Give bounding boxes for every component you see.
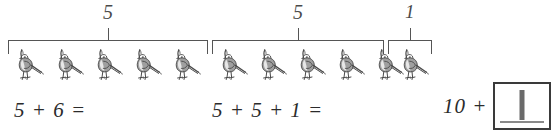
group-2-bracket-stem — [298, 28, 299, 41]
answer-input-box[interactable] — [493, 82, 551, 130]
group-1-label: 5 — [98, 2, 118, 22]
equation-3: 10 + — [443, 82, 551, 130]
equation-1: 5 + 6 = — [14, 100, 86, 121]
equation-2: 5 + 5 + 1 = — [212, 100, 323, 121]
group-2-bracket — [212, 40, 384, 54]
group-3-bracket-stem — [410, 28, 411, 41]
group-1-bracket — [8, 40, 208, 54]
group-1-bracket-stem — [108, 28, 109, 41]
group-3-bracket — [388, 40, 432, 54]
group-3-label: 1 — [401, 2, 419, 21]
handwritten-answer-digit — [520, 90, 525, 120]
equation-3-prefix: 10 + — [443, 96, 487, 117]
answer-writing-line — [500, 121, 544, 123]
group-2-label: 5 — [288, 2, 308, 22]
